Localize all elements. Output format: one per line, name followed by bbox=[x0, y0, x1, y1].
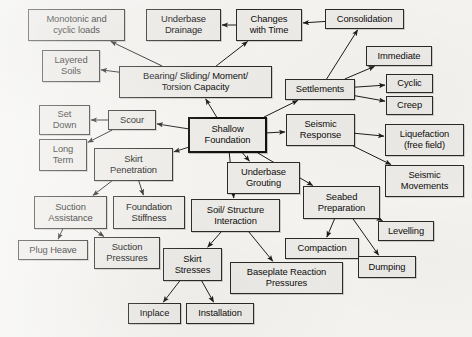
node-label-line: Levelling bbox=[388, 226, 424, 237]
node-label-line: Pressures bbox=[247, 278, 327, 289]
node-suction_pressures[interactable]: SuctionPressures bbox=[94, 237, 160, 269]
node-layered_soils[interactable]: LayeredSoils bbox=[42, 50, 100, 82]
node-label-line: cyclic loads bbox=[46, 25, 106, 36]
edge-suction_assistance-to-suction_pressures bbox=[94, 229, 104, 236]
node-suction_assistance[interactable]: SuctionAssistance bbox=[34, 196, 107, 229]
node-label-line: Preparation bbox=[318, 203, 365, 214]
edge-skirt_penetration-to-foundation_stiffness bbox=[139, 181, 144, 195]
node-set_down[interactable]: SetDown bbox=[39, 105, 90, 135]
node-label-line: Pressures bbox=[106, 253, 147, 264]
node-liquefaction_free_field[interactable]: Liquefaction(free field) bbox=[385, 124, 464, 156]
edge-suction_assistance-to-plug_heave bbox=[58, 229, 63, 239]
node-label: Plug Heave bbox=[29, 245, 76, 256]
node-label: Dumping bbox=[369, 262, 406, 273]
node-consolidation[interactable]: Consolidation bbox=[325, 9, 404, 29]
node-settlements[interactable]: Settlements bbox=[285, 79, 355, 100]
node-label: Bearing/ Sliding/ Moment/Torsion Capacit… bbox=[143, 71, 248, 92]
node-changes_with_time[interactable]: Changeswith Time bbox=[236, 9, 302, 41]
node-cyclic[interactable]: Cyclic bbox=[386, 74, 433, 93]
node-compaction[interactable]: Compaction bbox=[285, 238, 359, 259]
node-label: SkirtStresses bbox=[175, 254, 211, 275]
node-label-line: (free field) bbox=[400, 140, 449, 151]
node-label-line: Assistance bbox=[48, 213, 92, 224]
edge-seabed_preparation-to-compaction bbox=[327, 219, 335, 237]
edge-seismic_response-to-liquefaction_free_field bbox=[355, 133, 384, 136]
node-label: Soil/ StructureInteraction bbox=[207, 205, 264, 226]
node-underbase_drainage[interactable]: UnderbaseDrainage bbox=[146, 9, 221, 41]
node-label-line: Response bbox=[300, 130, 341, 141]
edge-bearing_sliding_moment_torsion-to-layered_soils bbox=[101, 70, 119, 72]
node-label-line: Settlements bbox=[296, 84, 344, 95]
node-label: Baseplate ReactionPressures bbox=[247, 267, 327, 288]
node-label-line: Scour bbox=[120, 115, 144, 126]
edge-shallow_foundation-to-seismic_response bbox=[267, 132, 285, 133]
node-label: Installation bbox=[198, 308, 242, 319]
edge-shallow_foundation-to-bearing_sliding_moment_torsion bbox=[206, 99, 217, 117]
node-bearing_sliding_moment_torsion[interactable]: Bearing/ Sliding/ Moment/Torsion Capacit… bbox=[119, 66, 272, 98]
node-inplace[interactable]: Inplace bbox=[128, 303, 181, 324]
node-monotonic_cyclic_loads[interactable]: Monotonic andcyclic loads bbox=[28, 9, 125, 41]
node-skirt_penetration[interactable]: SkirtPenetration bbox=[94, 148, 173, 181]
node-label: Inplace bbox=[140, 308, 170, 319]
node-soil_structure_interaction[interactable]: Soil/ StructureInteraction bbox=[191, 199, 280, 232]
node-label: SuctionAssistance bbox=[48, 202, 92, 223]
node-label: Scour bbox=[120, 115, 144, 126]
node-immediate[interactable]: Immediate bbox=[366, 46, 432, 66]
node-shallow_foundation[interactable]: ShallowFoundation bbox=[188, 117, 267, 153]
edge-shallow_foundation-to-underbase_grouting bbox=[243, 153, 250, 161]
node-label: UnderbaseDrainage bbox=[161, 14, 206, 35]
node-label-line: Stresses bbox=[175, 265, 211, 276]
edge-shallow_foundation-to-scour bbox=[157, 124, 188, 129]
node-label-line: Suction bbox=[48, 202, 92, 213]
edge-scour-to-long_term bbox=[88, 130, 112, 142]
node-label-line: Installation bbox=[198, 308, 242, 319]
edge-soil_structure_interaction-to-skirt_stresses bbox=[208, 232, 221, 247]
node-baseplate_reaction_pressures[interactable]: Baseplate ReactionPressures bbox=[230, 262, 343, 294]
node-label-line: Drainage bbox=[161, 25, 206, 36]
node-levelling[interactable]: Levelling bbox=[378, 221, 434, 241]
node-label: SeabedPreparation bbox=[318, 192, 365, 213]
node-label-line: Stiffness bbox=[126, 213, 172, 224]
node-label-line: Foundation bbox=[126, 202, 172, 213]
node-label-line: Consolidation bbox=[337, 14, 393, 25]
node-label: SuctionPressures bbox=[106, 242, 147, 263]
node-label-line: Term bbox=[53, 155, 73, 166]
node-label: UnderbaseGrouting bbox=[241, 167, 286, 188]
node-label-line: Soils bbox=[54, 66, 87, 77]
node-installation[interactable]: Installation bbox=[186, 303, 254, 324]
node-label-line: Compaction bbox=[297, 243, 346, 254]
edge-bearing_sliding_moment_torsion-to-monotonic_cyclic_loads bbox=[111, 41, 162, 66]
edge-settlements-to-immediate bbox=[345, 66, 375, 79]
node-foundation_stiffness[interactable]: FoundationStiffness bbox=[113, 196, 185, 229]
node-label: LongTerm bbox=[53, 144, 73, 165]
node-creep[interactable]: Creep bbox=[386, 96, 433, 115]
node-label-line: Dumping bbox=[369, 262, 406, 273]
edge-skirt_stresses-to-inplace bbox=[163, 281, 179, 302]
node-skirt_stresses[interactable]: SkirtStresses bbox=[163, 248, 222, 281]
node-seabed_preparation[interactable]: SeabedPreparation bbox=[303, 186, 380, 219]
node-plug_heave[interactable]: Plug Heave bbox=[18, 240, 88, 260]
node-seismic_response[interactable]: SeismicResponse bbox=[286, 114, 355, 146]
node-label: FoundationStiffness bbox=[126, 202, 172, 223]
node-label-line: Down bbox=[53, 120, 77, 131]
node-long_term[interactable]: LongTerm bbox=[39, 139, 87, 171]
edge-settlements-to-consolidation bbox=[327, 30, 358, 79]
edge-bearing_sliding_moment_torsion-to-changes_with_time bbox=[216, 42, 247, 66]
node-label-line: Cyclic bbox=[397, 78, 421, 89]
diagram-canvas: Monotonic andcyclic loadsUnderbaseDraina… bbox=[0, 0, 472, 337]
node-label-line: Foundation bbox=[205, 135, 251, 146]
node-label-line: Penetration bbox=[110, 165, 157, 176]
node-label: Cyclic bbox=[397, 78, 421, 89]
node-scour[interactable]: Scour bbox=[108, 110, 156, 130]
node-underbase_grouting[interactable]: UnderbaseGrouting bbox=[227, 162, 300, 194]
node-dumping[interactable]: Dumping bbox=[358, 256, 416, 278]
node-label: Levelling bbox=[388, 226, 424, 237]
node-label: Monotonic andcyclic loads bbox=[46, 14, 106, 35]
node-seismic_movements[interactable]: SeismicMovements bbox=[385, 165, 464, 197]
edge-shallow_foundation-to-skirt_penetration bbox=[174, 147, 188, 151]
node-label-line: with Time bbox=[250, 25, 289, 36]
node-label: Compaction bbox=[297, 243, 346, 254]
node-label-line: Immediate bbox=[378, 51, 421, 62]
node-label: SeismicResponse bbox=[300, 119, 341, 140]
edge-settlements-to-creep bbox=[355, 96, 385, 101]
